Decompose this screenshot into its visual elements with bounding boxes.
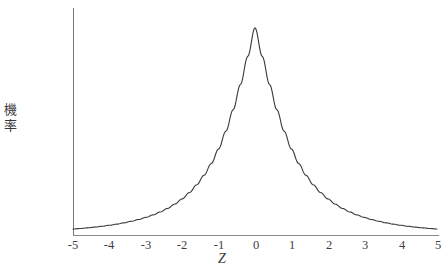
chart-figure: 機率 0.0025 0.0020 0.0015 0.0010 0.0005 0.… — [0, 0, 444, 271]
plot-area — [73, 10, 437, 236]
y-axis-title: 機率 — [2, 102, 19, 134]
distribution-curve — [73, 10, 437, 236]
chart-title-cropped — [0, 0, 444, 4]
x-axis-title: Z — [0, 251, 444, 267]
